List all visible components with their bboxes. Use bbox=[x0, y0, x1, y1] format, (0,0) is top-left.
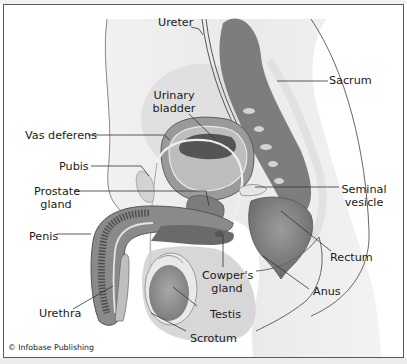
credit-text: © Infobase Publishing bbox=[8, 343, 94, 352]
label-testis: Testis bbox=[210, 309, 241, 322]
label-urinary-bladder-line1: Urinary bbox=[150, 90, 198, 103]
label-seminal-vesicle: Seminal vesicle bbox=[340, 184, 388, 209]
label-cowpers-gland: Cowper's gland bbox=[202, 270, 252, 295]
label-scrotum: Scrotum bbox=[190, 333, 237, 346]
label-rectum: Rectum bbox=[330, 252, 373, 265]
label-prostate-gland: Prostate gland bbox=[34, 186, 78, 211]
bottom-strip bbox=[0, 358, 407, 364]
label-prostate-line2: gland bbox=[34, 199, 78, 212]
label-penis: Penis bbox=[29, 231, 58, 244]
label-seminal-line1: Seminal bbox=[340, 184, 388, 197]
label-cowpers-line2: gland bbox=[202, 283, 252, 296]
label-sacrum: Sacrum bbox=[329, 75, 372, 88]
label-ureter: Ureter bbox=[158, 17, 193, 30]
label-urinary-bladder: Urinary bladder bbox=[150, 90, 198, 115]
cowpers-gland-shape bbox=[215, 231, 223, 237]
anatomy-illustration bbox=[4, 5, 403, 357]
label-seminal-line2: vesicle bbox=[340, 197, 388, 210]
figure-frame: Ureter Sacrum Urinary bladder Vas defere… bbox=[3, 4, 404, 358]
label-urethra: Urethra bbox=[39, 308, 81, 321]
label-prostate-line1: Prostate bbox=[34, 186, 78, 199]
label-pubis: Pubis bbox=[59, 161, 89, 174]
label-vas-deferens: Vas deferens bbox=[25, 130, 97, 143]
label-anus: Anus bbox=[313, 286, 341, 299]
label-cowpers-line1: Cowper's bbox=[202, 270, 252, 283]
label-urinary-bladder-line2: bladder bbox=[150, 103, 198, 116]
